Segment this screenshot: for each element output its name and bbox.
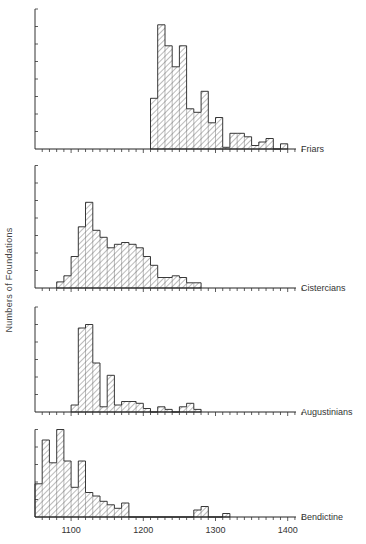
histogram-bars [35,430,230,518]
panel-friars: Friars [35,9,324,154]
panel-bendictine: Bendictine1100120013001400 [35,430,343,536]
histogram-figure: FriarsCisterciansAugustiniansBendictine1… [0,0,366,544]
panel-label: Bendictine [301,512,343,522]
x-tick-label: 1400 [278,525,298,535]
panel-augustinians: Augustinians [35,307,353,417]
panel-label: Friars [301,144,324,154]
y-axis-label: Numbers of Foundations [4,227,14,332]
panel-cistercians: Cistercians [35,166,346,294]
histogram-bars [71,325,201,413]
x-tick-label: 1100 [61,525,80,535]
y-axis-label-container: Numbers of Foundations [0,200,18,360]
panel-label: Augustinians [301,407,353,417]
panel-label: Cistercians [301,283,346,293]
histogram-bars [151,25,288,149]
x-tick-label: 1300 [205,525,225,535]
x-tick-label: 1200 [133,525,153,535]
